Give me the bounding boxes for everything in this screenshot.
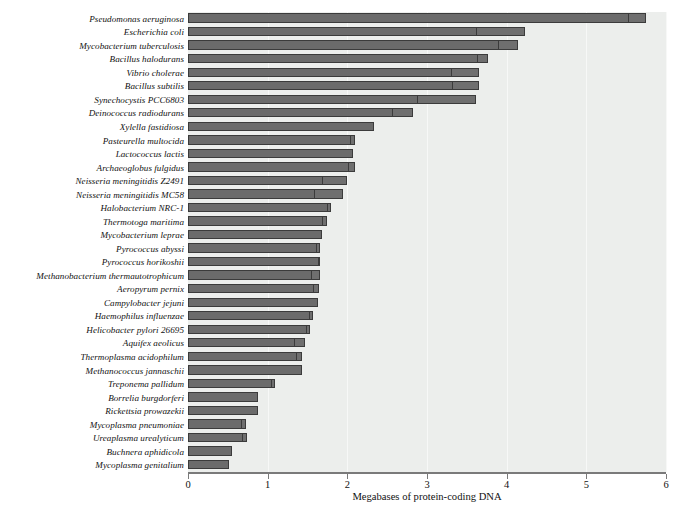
bar-label: Thermoplasma acidophilum — [80, 352, 184, 362]
bar-row: Rickettsia prowazekii — [0, 404, 675, 418]
bar-label: Pyrococcus abyssi — [116, 244, 184, 254]
bar-tip-segment — [477, 55, 487, 62]
bar-tip-segment — [451, 69, 478, 76]
bar-row: Mycoplasma pneumoniae — [0, 418, 675, 432]
bar-row: Mycoplasma genitalium — [0, 458, 675, 472]
bar-row: Pseudomonas aeruginosa — [0, 12, 675, 26]
bar-tip-segment — [242, 434, 246, 441]
bar — [188, 230, 322, 239]
bar-label: Bacillus halodurans — [110, 54, 184, 64]
bar-label: Lactococcus lactis — [116, 149, 184, 159]
bar-tip-segment — [498, 41, 517, 48]
bar — [188, 311, 313, 320]
bar-row: Neisseria meningitidis Z2491 — [0, 174, 675, 188]
bar-row: Buchnera aphidicola — [0, 445, 675, 459]
bar-tip-segment — [322, 217, 326, 224]
bar — [188, 68, 479, 77]
bar — [188, 95, 476, 104]
bar-tip-segment — [392, 109, 413, 116]
bar-row: Neisseria meningitidis MC58 — [0, 188, 675, 202]
bar-row: Bacillus subtilis — [0, 80, 675, 94]
bar — [188, 122, 374, 131]
bar-row: Haemophilus influenzae — [0, 310, 675, 324]
x-tick-label: 6 — [663, 479, 668, 490]
bar-label: Vibrio cholerae — [127, 68, 184, 78]
bar-row: Mycobacterium leprae — [0, 228, 675, 242]
x-tick-label: 2 — [345, 479, 350, 490]
bar-row: Lactococcus lactis — [0, 147, 675, 161]
bar-label: Buchnera aphidicola — [107, 446, 184, 456]
bar-tip-segment — [314, 190, 343, 197]
bar — [188, 135, 355, 144]
bar-label: Deinococcus radiodurans — [89, 108, 184, 118]
bar — [188, 433, 247, 442]
bar-row: Pasteurella multocida — [0, 134, 675, 148]
bar-label: Thermotoga maritima — [103, 216, 184, 226]
bar — [188, 54, 488, 63]
bar-label: Helicobacter pylori 26695 — [86, 325, 184, 335]
bar-label: Methanobacterium thermautotrophicum — [36, 271, 184, 281]
bar-tip-segment — [316, 244, 319, 251]
bar-row: Vibrio cholerae — [0, 66, 675, 80]
bar-label: Mycoplasma pneumoniae — [90, 419, 184, 429]
bar-row: Thermotoga maritima — [0, 215, 675, 229]
bar — [188, 203, 331, 212]
bar — [188, 352, 302, 361]
bar — [188, 419, 246, 428]
bar — [188, 298, 318, 307]
bar-row: Aquifex aeolicus — [0, 337, 675, 351]
bar-tip-segment — [241, 420, 245, 427]
bar — [188, 40, 518, 49]
bar — [188, 406, 258, 415]
bar — [188, 446, 232, 455]
bar-row: Halobacterium NRC-1 — [0, 201, 675, 215]
bar-row: Treponema pallidum — [0, 377, 675, 391]
bar-label: Xylella fastidiosa — [120, 122, 184, 132]
bar-row: Xylella fastidiosa — [0, 120, 675, 134]
bar — [188, 325, 310, 334]
bar-label: Pasteurella multocida — [103, 135, 184, 145]
x-tick-label: 1 — [265, 479, 270, 490]
bar — [188, 338, 305, 347]
x-tick-label: 5 — [584, 479, 589, 490]
bar — [188, 392, 258, 401]
bar-tip-segment — [306, 326, 309, 333]
bar-row: Escherichia coli — [0, 26, 675, 40]
bar — [188, 284, 319, 293]
bar-row: Thermoplasma acidophilum — [0, 350, 675, 364]
x-tick-label: 0 — [185, 479, 190, 490]
bar-rows: Pseudomonas aeruginosaEscherichia coliMy… — [0, 12, 675, 472]
bar-tip-segment — [296, 353, 301, 360]
bar-row: Aeropyrum pernix — [0, 283, 675, 297]
bar-label: Pseudomonas aeruginosa — [89, 14, 184, 24]
bar — [188, 216, 327, 225]
bar-label: Haemophilus influenzae — [95, 311, 184, 321]
bar — [188, 257, 320, 266]
bar — [188, 460, 229, 469]
x-axis-title: Megabases of protein-coding DNA — [188, 491, 666, 502]
bar-tip-segment — [318, 258, 320, 265]
bar — [188, 189, 343, 198]
bar-tip-segment — [271, 380, 273, 387]
bar-tip-segment — [350, 136, 355, 143]
bar-label: Rickettsia prowazekii — [105, 406, 184, 416]
bar-tip-segment — [348, 163, 354, 170]
bar-row: Methanobacterium thermautotrophicum — [0, 269, 675, 283]
bar — [188, 108, 413, 117]
bar-tip-segment — [309, 312, 312, 319]
bar-row: Helicobacter pylori 26695 — [0, 323, 675, 337]
bar-tip-segment — [417, 96, 474, 103]
bar-label: Neisseria meningitidis MC58 — [76, 189, 184, 199]
bar-tip-segment — [452, 82, 478, 89]
bar-row: Pyrococcus abyssi — [0, 242, 675, 256]
bar-row: Borrelia burgdorferi — [0, 391, 675, 405]
bar — [188, 176, 347, 185]
bar-label: Archaeoglobus fulgidus — [97, 162, 184, 172]
bar-tip-segment — [327, 204, 330, 211]
bar-label: Campylobacter jejuni — [104, 298, 184, 308]
bar-row: Deinococcus radiodurans — [0, 107, 675, 121]
bar-tip-segment — [311, 271, 319, 278]
bar-row: Campylobacter jejuni — [0, 296, 675, 310]
bar — [188, 27, 525, 36]
bar-label: Bacillus subtilis — [125, 81, 184, 91]
